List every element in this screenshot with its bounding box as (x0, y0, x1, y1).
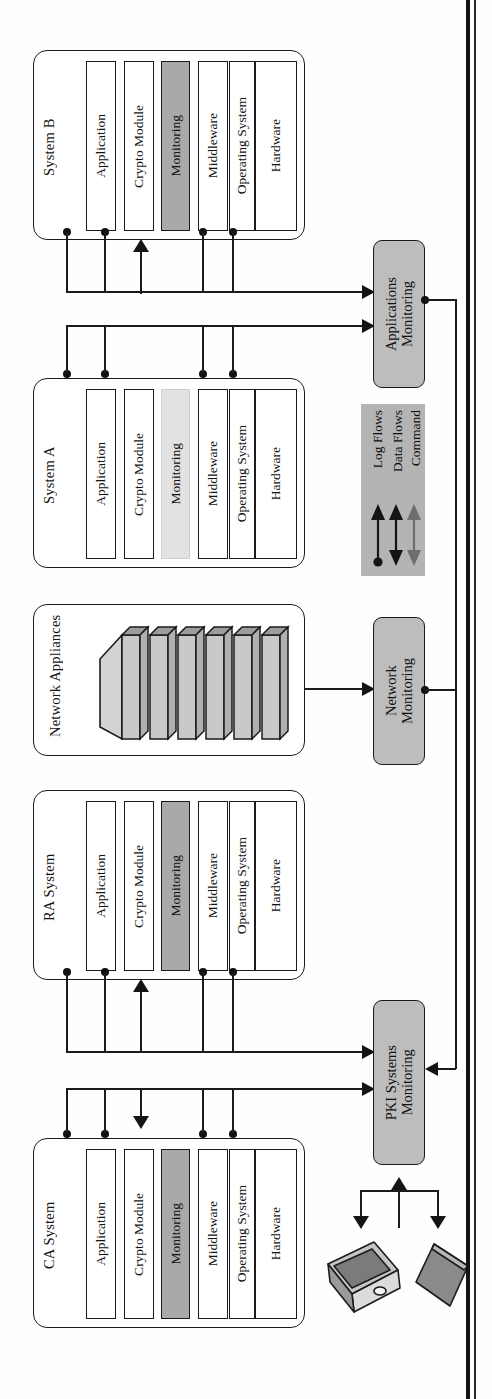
layer-label: Application (94, 442, 108, 506)
flow-legend: Log Flows Data Flows Command (361, 404, 425, 576)
connector-line (232, 325, 234, 374)
system-title: Network Appliances (46, 625, 86, 737)
command-line (140, 1088, 142, 1118)
command-line (140, 252, 142, 294)
layer-label: Hardware (269, 859, 283, 912)
layer-label: Operating System (235, 97, 249, 194)
layer-label: Monitoring (169, 443, 183, 505)
legend-label: Log Flows (371, 410, 385, 468)
system-title: CA System (42, 1185, 64, 1285)
layer-middleware: Middleware (198, 801, 228, 971)
monitor-label: NetworkMonitoring (383, 658, 415, 724)
monitor-box-pki-systems-monitoring[interactable]: PKI SystemsMonitoring (373, 1000, 425, 1165)
connector-line (104, 1088, 106, 1134)
legend-arrow-log-flows (369, 502, 387, 568)
connector-line (455, 299, 457, 1069)
bus-line (66, 1051, 373, 1053)
legend-arrow-data-flows (387, 502, 405, 568)
layer-label: Middleware (206, 113, 220, 178)
arrow-up-icon (391, 1177, 407, 1190)
connector-line (398, 1190, 400, 1228)
monitor-box-network-monitoring[interactable]: NetworkMonitoring (373, 617, 425, 765)
connector-line (66, 972, 68, 1052)
layer-crypto-module: Crypto Module (124, 801, 154, 971)
layer-label: Monitoring (169, 115, 183, 177)
layer-hardware: Hardware (255, 801, 297, 971)
system-box-system-a: System A Application Crypto Module Monit… (33, 378, 305, 568)
monitor-label: ApplicationsMonitoring (383, 277, 415, 351)
layer-operating-system: Operating System (229, 61, 255, 231)
arrow-left-icon (425, 1062, 438, 1076)
connector-line (232, 232, 234, 292)
diagram-canvas: System B Application Crypto Module Monit… (0, 0, 492, 1399)
layer-label: Hardware (269, 447, 283, 500)
legend-label: Command (409, 410, 423, 466)
layer-middleware: Middleware (198, 1149, 228, 1319)
connector-line (66, 325, 68, 374)
command-line (140, 992, 142, 1052)
layer-monitoring: Monitoring (161, 389, 190, 559)
layer-crypto-module: Crypto Module (124, 61, 154, 231)
monitor-label: PKI SystemsMonitoring (383, 1045, 415, 1120)
layer-application: Application (86, 801, 116, 971)
layer-label: Application (94, 1202, 108, 1266)
arrow-down-icon (353, 1216, 369, 1229)
arrow-down-icon (430, 1216, 446, 1229)
layer-label: Hardware (269, 1207, 283, 1260)
layer-label: Operating System (235, 425, 249, 522)
layer-label: Crypto Module (132, 845, 146, 928)
connector-line (360, 1190, 438, 1192)
connector-line (438, 1068, 456, 1070)
layer-label: Application (94, 854, 108, 918)
layer-middleware: Middleware (198, 389, 228, 559)
bus-line (66, 291, 373, 293)
system-box-ra-system: RA System Application Crypto Module Moni… (33, 790, 305, 980)
layer-label: Middleware (206, 1201, 220, 1266)
layer-label: Hardware (269, 119, 283, 172)
layer-hardware: Hardware (255, 61, 297, 231)
connector-line (104, 972, 106, 1052)
layer-application: Application (86, 61, 116, 231)
connector-line (66, 232, 68, 292)
layer-label: Crypto Module (132, 105, 146, 188)
layer-label: Operating System (235, 1185, 249, 1282)
operator-console-icon (412, 1240, 474, 1316)
connector-line (104, 325, 106, 374)
layer-application: Application (86, 389, 116, 559)
layer-label: Crypto Module (132, 433, 146, 516)
connector-line (66, 1088, 68, 1134)
layer-hardware: Hardware (255, 389, 297, 559)
layer-label: Crypto Module (132, 1193, 146, 1276)
connector-line (360, 1190, 362, 1218)
system-box-system-b: System B Application Crypto Module Monit… (33, 50, 305, 240)
layer-monitoring: Monitoring (161, 1149, 190, 1319)
layer-hardware: Hardware (255, 1149, 297, 1319)
system-title: RA System (42, 837, 64, 937)
appliance-stack (96, 615, 296, 747)
layer-label: Middleware (206, 441, 220, 506)
page-edge-bar (466, 0, 470, 1399)
layer-label: Operating System (235, 837, 249, 934)
layer-monitoring: Monitoring (161, 801, 190, 971)
layer-operating-system: Operating System (229, 389, 255, 559)
layer-monitoring: Monitoring (161, 61, 190, 231)
connector-line (202, 1088, 204, 1134)
arrow-up-icon (133, 979, 149, 992)
layer-middleware: Middleware (198, 61, 228, 231)
connector-line (202, 232, 204, 292)
layer-operating-system: Operating System (229, 1149, 255, 1319)
connector-line (202, 325, 204, 374)
connector-line (437, 1190, 439, 1218)
arrow-up-icon (133, 239, 149, 252)
legend-label: Data Flows (391, 410, 405, 472)
system-title: System B (42, 97, 64, 197)
monitor-box-applications-monitoring[interactable]: ApplicationsMonitoring (373, 240, 425, 388)
arrow-down-icon (133, 1116, 149, 1129)
layer-label: Monitoring (169, 855, 183, 917)
connector-line (425, 299, 456, 301)
operator-workstation-icon (322, 1236, 404, 1326)
connector-line (232, 1088, 234, 1134)
layer-crypto-module: Crypto Module (124, 389, 154, 559)
layer-label: Application (94, 114, 108, 178)
page-edge-bar-secondary (474, 0, 476, 1399)
